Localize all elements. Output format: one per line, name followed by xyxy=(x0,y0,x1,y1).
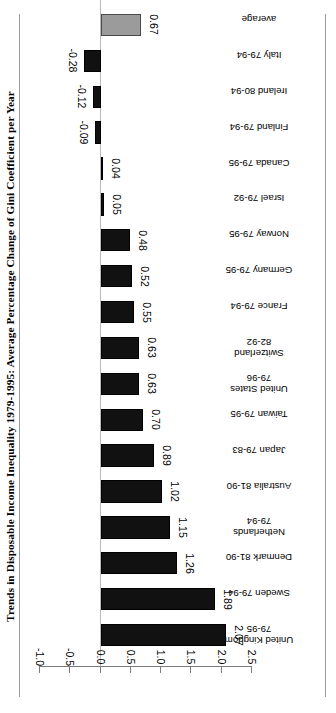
category-label: Norway 79-95 xyxy=(213,229,305,240)
bar xyxy=(101,301,134,323)
bar xyxy=(101,445,155,467)
bar-value-label: 0.04 xyxy=(109,147,122,191)
axis-tick-label: -0.5 xyxy=(63,637,77,677)
figure-border-right xyxy=(325,14,326,697)
bar xyxy=(101,265,132,287)
bar xyxy=(101,157,103,179)
category-label: Ireland 80-94 xyxy=(213,86,305,97)
bar-value-label: 0.67 xyxy=(147,3,160,47)
chart-figure: Trends in Disposable Income Inequality 1… xyxy=(0,0,336,713)
bar xyxy=(101,588,215,610)
bar xyxy=(101,14,142,36)
category-label: Japan 79-83 xyxy=(213,445,305,456)
category-label: Taiwan 79-95 xyxy=(213,409,305,420)
bar xyxy=(101,409,143,431)
bar xyxy=(93,86,100,108)
category-label: Germany 79-95 xyxy=(213,265,305,276)
category-label: Canada 79-95 xyxy=(213,158,305,169)
bar xyxy=(101,337,139,359)
category-label: Italy 79-94 xyxy=(213,50,305,61)
bar xyxy=(84,50,101,72)
category-label: Sweden 79-94 xyxy=(213,588,305,599)
bar-value-label: 1.89 xyxy=(221,577,234,621)
category-label: United States 79-96 xyxy=(213,373,305,395)
bar xyxy=(101,193,104,215)
axis-tick-label: -1.0 xyxy=(33,637,47,677)
bar xyxy=(101,229,130,251)
bar xyxy=(95,122,100,144)
category-label: Finland 79-94 xyxy=(213,122,305,133)
bar xyxy=(101,624,226,646)
category-label: France 79-94 xyxy=(213,301,305,312)
bar xyxy=(101,480,163,502)
bar-value-label: -0.28 xyxy=(65,39,78,83)
bar xyxy=(101,516,171,538)
category-label: Israel 79-92 xyxy=(213,193,305,204)
bar-value-label: 0.89 xyxy=(160,434,173,478)
category-label: Australia 81-90 xyxy=(213,481,305,492)
bar xyxy=(101,373,139,395)
category-label: Switzerland 82-92 xyxy=(213,337,305,359)
category-label: Netherlands 79-94 xyxy=(213,516,305,538)
category-label: United Kingdom 79-95 xyxy=(213,624,305,646)
bar-value-label: 0.48 xyxy=(135,218,148,262)
bar xyxy=(101,552,177,574)
category-label: average xyxy=(213,14,305,25)
page-title: Trends in Disposable Income Inequality 1… xyxy=(0,0,20,713)
category-label: Denmark 81-90 xyxy=(213,552,305,563)
